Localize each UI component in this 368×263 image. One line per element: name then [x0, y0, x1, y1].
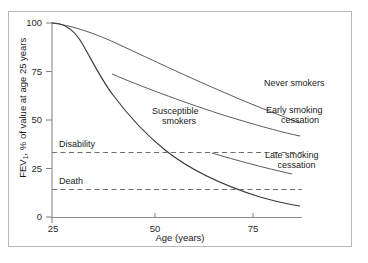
x-axis-title: Age (years)	[110, 232, 250, 243]
y-axis-title: FEV1, % of value at age 25 years	[18, 22, 28, 194]
x-tick-label-25: 25	[45, 224, 61, 234]
y-tick-label-0: 0	[14, 212, 42, 222]
y-axis-title-rest: , % of value at age 25 years	[17, 38, 28, 156]
y-axis-title-subscript: 1	[22, 155, 29, 159]
series-label-early-smoking-cessation: Early smoking cessation	[266, 105, 323, 125]
y-axis-ticks	[46, 23, 52, 217]
threshold-label-disability: Disability	[59, 140, 95, 149]
y-axis-title-main: FEV	[17, 159, 28, 177]
series-label-susceptible-smokers: Susceptible smokers	[152, 106, 199, 126]
threshold-label-death: Death	[59, 177, 83, 186]
figure-container: 100 75 50 25 0 25 50 75 FEV1, % of value…	[0, 0, 368, 263]
series-label-never-smokers: Never smokers	[264, 78, 325, 88]
series-label-late-smoking-cessation: Late smoking cessation	[265, 150, 319, 170]
